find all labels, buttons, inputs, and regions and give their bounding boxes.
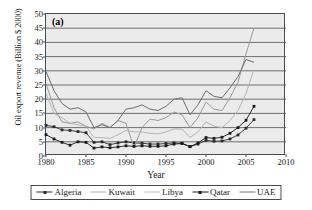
- chart-legend: AlgeriaKuwaitLibyaQatarUAE: [31, 185, 282, 200]
- y-tick-mark: [43, 42, 46, 43]
- legend-key-icon: [192, 188, 208, 197]
- y-tick-label: 30: [35, 66, 44, 76]
- x-tick-mark: [86, 154, 87, 157]
- y-tick-mark: [43, 141, 46, 142]
- y-tick-mark: [43, 28, 46, 29]
- legend-marker-icon: [43, 191, 46, 194]
- x-tick-mark: [126, 154, 127, 157]
- y-tick-label: 25: [35, 80, 44, 90]
- legend-item-uae[interactable]: UAE: [239, 187, 276, 197]
- legend-item-libya[interactable]: Libya: [144, 187, 183, 197]
- x-axis-label: Year: [0, 170, 312, 180]
- y-tick-mark: [43, 113, 46, 114]
- plot-area: 0510152025303540455019801985199019952000…: [45, 13, 285, 155]
- series-uae: [46, 59, 254, 127]
- y-tick-mark: [43, 70, 46, 71]
- y-axis-label: Oil export revenue (Billion $ 2000): [13, 0, 23, 147]
- legend-key-icon: [91, 188, 107, 197]
- x-tick-label: 1980: [38, 157, 55, 167]
- legend-label: Algeria: [55, 187, 82, 197]
- series-kuwait: [46, 28, 254, 147]
- x-tick-mark: [166, 154, 167, 157]
- legend-key-icon: [37, 188, 53, 197]
- x-tick-label: 1990: [118, 157, 135, 167]
- legend-label: UAE: [257, 187, 276, 197]
- x-tick-label: 1985: [78, 157, 95, 167]
- legend-key-icon: [239, 188, 255, 197]
- x-tick-label: 2005: [238, 157, 255, 167]
- y-tick-mark: [43, 14, 46, 15]
- y-tick-label: 20: [35, 94, 44, 104]
- y-tick-mark: [43, 99, 46, 100]
- y-tick-label: 35: [35, 52, 44, 62]
- legend-item-algeria[interactable]: Algeria: [37, 187, 82, 197]
- y-tick-label: 45: [35, 23, 44, 33]
- x-tick-label: 2010: [278, 157, 295, 167]
- y-tick-label: 50: [35, 9, 44, 19]
- x-tick-mark: [46, 154, 47, 157]
- legend-key-icon: [144, 188, 160, 197]
- legend-item-qatar[interactable]: Qatar: [192, 187, 230, 197]
- chart-figure: Oil export revenue (Billion $ 2000) 0510…: [0, 0, 312, 210]
- series-libya: [46, 69, 254, 138]
- x-tick-label: 1995: [158, 157, 175, 167]
- x-tick-mark: [206, 154, 207, 157]
- y-tick-label: 10: [35, 123, 44, 133]
- y-tick-mark: [43, 85, 46, 86]
- y-tick-label: 40: [35, 37, 44, 47]
- legend-item-kuwait[interactable]: Kuwait: [91, 187, 136, 197]
- panel-label: (a): [52, 16, 64, 27]
- x-tick-mark: [246, 154, 247, 157]
- legend-label: Libya: [162, 187, 183, 197]
- y-tick-mark: [43, 56, 46, 57]
- x-tick-label: 2000: [198, 157, 215, 167]
- legend-label: Qatar: [210, 187, 230, 197]
- y-tick-label: 15: [35, 108, 44, 118]
- legend-marker-icon: [199, 191, 202, 194]
- legend-label: Kuwait: [109, 187, 136, 197]
- y-tick-mark: [43, 127, 46, 128]
- x-tick-mark: [286, 154, 287, 157]
- data-series-layer: [46, 14, 286, 156]
